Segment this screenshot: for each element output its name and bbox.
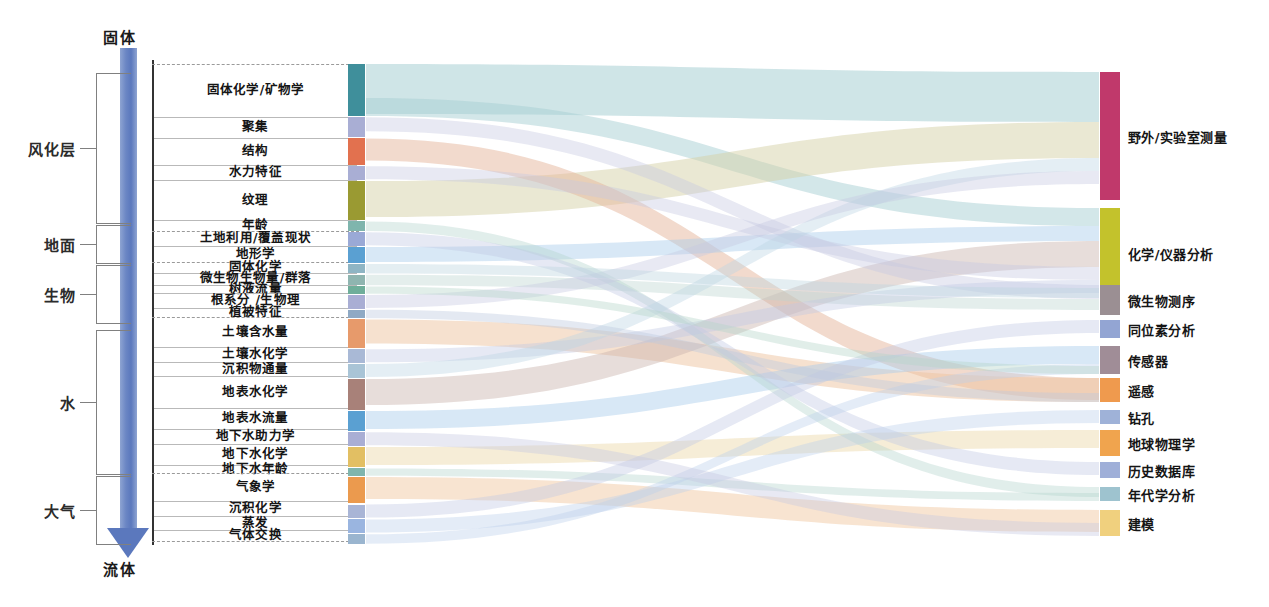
group-bracket-2	[96, 265, 131, 324]
left-node-bar[interactable]	[348, 166, 365, 180]
left-item-row[interactable]: 地下水助力学	[154, 429, 357, 444]
left-node-bar[interactable]	[348, 232, 365, 246]
left-node-bar[interactable]	[348, 64, 365, 116]
left-node-bar[interactable]	[348, 295, 365, 309]
left-item-row[interactable]: 地表水流量	[154, 408, 357, 429]
right-node-label: 历史数据库	[1128, 461, 1195, 480]
left-node-bar[interactable]	[348, 181, 365, 220]
left-item-label: 地表水流量	[222, 412, 289, 425]
left-item-label: 土壤水化学	[222, 348, 289, 361]
group-label-水: 水	[0, 392, 76, 413]
right-node-label: 同位素分析	[1128, 320, 1195, 339]
group-label-生物: 生物	[0, 284, 76, 305]
right-node-bar[interactable]	[1100, 378, 1120, 402]
left-item-row[interactable]: 结构	[154, 138, 357, 165]
left-node-bar[interactable]	[348, 519, 365, 533]
left-item-row[interactable]: 聚集	[154, 117, 357, 138]
group-label-风化层: 风化层	[0, 138, 76, 159]
left-node-bar[interactable]	[348, 138, 365, 164]
left-item-row[interactable]: 土壤含水量	[154, 317, 357, 347]
right-node-bar[interactable]	[1100, 430, 1120, 456]
group-label-大气: 大气	[0, 500, 76, 521]
left-node-bar[interactable]	[348, 221, 365, 230]
left-node-bar[interactable]	[348, 286, 365, 293]
left-item-label: 地下水助力学	[216, 430, 296, 443]
left-node-bar[interactable]	[348, 275, 365, 286]
group-bracket-3	[96, 330, 131, 475]
left-row-separator	[152, 541, 359, 542]
left-item-label: 土壤含水量	[222, 326, 289, 339]
right-node-label: 野外/实验室测量	[1128, 127, 1227, 146]
axis-top-label: 固体	[103, 26, 137, 47]
left-node-bar[interactable]	[348, 505, 365, 519]
left-item-row[interactable]: 土壤水化学	[154, 347, 357, 362]
left-item-row[interactable]: 水力特征	[154, 165, 357, 180]
left-item-label: 气象学	[236, 481, 276, 494]
left-item-label: 固体化学/矿物学	[207, 84, 305, 97]
left-node-bar[interactable]	[348, 349, 365, 363]
right-node-label: 建模	[1128, 514, 1155, 533]
right-node-label: 地球物理学	[1128, 434, 1195, 453]
left-row-separator	[152, 64, 359, 65]
left-node-bar[interactable]	[348, 264, 365, 273]
left-item-row[interactable]: 沉积物通量	[154, 362, 357, 377]
left-node-bar[interactable]	[348, 411, 365, 431]
right-node-label: 传感器	[1128, 351, 1168, 370]
left-item-row[interactable]: 固体化学/矿物学	[154, 64, 357, 117]
left-item-label: 沉积物通量	[222, 363, 289, 376]
left-item-label: 地表水化学	[222, 386, 289, 399]
left-node-bar[interactable]	[348, 319, 365, 348]
left-node-bar[interactable]	[348, 477, 365, 503]
left-node-bar[interactable]	[348, 447, 365, 467]
left-item-label: 土地利用/覆盖现状	[200, 232, 311, 245]
group-bracket-1	[96, 225, 131, 264]
left-item-label: 结构	[242, 145, 269, 158]
right-node-label: 年代学分析	[1128, 485, 1195, 504]
right-node-bar[interactable]	[1100, 320, 1120, 338]
left-node-bar[interactable]	[348, 247, 365, 263]
right-node-bar[interactable]	[1100, 410, 1120, 424]
right-node-bar[interactable]	[1100, 510, 1120, 536]
left-item-column: 固体化学/矿物学聚集结构水力特征纹理年龄土地利用/覆盖现状地形学固体化学微生物生…	[152, 60, 357, 545]
group-tick-4	[80, 510, 96, 511]
left-item-label: 沉积化学	[229, 502, 282, 515]
group-label-地面: 地面	[0, 234, 76, 255]
left-item-row[interactable]: 土地利用/覆盖现状	[154, 231, 357, 246]
left-node-bar[interactable]	[348, 364, 365, 378]
axis-bottom-label: 流体	[103, 558, 137, 579]
left-item-label: 纹理	[242, 194, 269, 207]
left-item-label: 地形学	[236, 248, 276, 261]
left-node-bar[interactable]	[348, 468, 365, 475]
right-node-bar[interactable]	[1100, 487, 1120, 501]
left-item-row[interactable]: 沉积化学	[154, 501, 357, 516]
group-tick-0	[80, 148, 96, 149]
right-node-bar[interactable]	[1100, 346, 1120, 374]
right-node-bar[interactable]	[1100, 462, 1120, 478]
right-node-bar[interactable]	[1100, 72, 1120, 200]
sankey-diagram-canvas: 固体 流体 风化层地面生物水大气 固体化学/矿物学聚集结构水力特征纹理年龄土地利…	[0, 0, 1269, 607]
left-node-bar[interactable]	[348, 117, 365, 137]
right-node-label: 化学/仪器分析	[1128, 244, 1214, 263]
left-item-row[interactable]: 植被特征	[154, 308, 357, 317]
group-tick-3	[80, 402, 96, 403]
left-item-row[interactable]: 气象学	[154, 473, 357, 500]
left-item-label: 聚集	[242, 121, 269, 134]
group-bracket-4	[96, 476, 131, 545]
left-item-label: 水力特征	[229, 166, 282, 179]
left-item-row[interactable]: 气体交换	[154, 530, 357, 541]
left-node-bar[interactable]	[348, 379, 365, 410]
left-node-bar[interactable]	[348, 432, 365, 446]
right-node-bar[interactable]	[1100, 285, 1120, 315]
right-node-label: 微生物测序	[1128, 291, 1195, 310]
left-item-row[interactable]: 地下水年龄	[154, 465, 357, 473]
group-tick-1	[80, 244, 96, 245]
left-item-row[interactable]: 地表水化学	[154, 376, 357, 408]
left-node-bar[interactable]	[348, 534, 365, 543]
left-node-bar[interactable]	[348, 310, 365, 318]
group-bracket-0	[96, 73, 131, 224]
group-tick-2	[80, 294, 96, 295]
right-node-label: 遥感	[1128, 381, 1155, 400]
right-node-label: 钻孔	[1128, 408, 1155, 427]
left-item-label: 地下水化学	[222, 448, 289, 461]
left-item-row[interactable]: 纹理	[154, 180, 357, 220]
